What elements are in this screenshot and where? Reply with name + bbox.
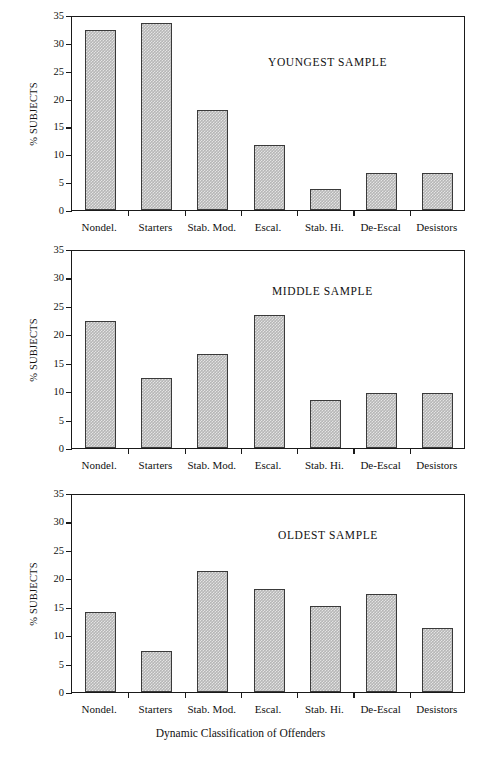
y-tick-label: 35 <box>54 245 65 256</box>
bar <box>85 612 116 692</box>
y-tick <box>66 494 72 495</box>
y-tick <box>66 335 72 336</box>
axes-youngest: 05101520253035 <box>71 16 465 211</box>
x-tick-label: Stab. Hi. <box>305 460 344 471</box>
panel-title-youngest: YOUNGEST SAMPLE <box>268 56 387 68</box>
y-tick <box>66 608 72 609</box>
axis-frame-top <box>72 250 465 251</box>
y-axis-title-youngest: % SUBJECTS <box>2 108 20 119</box>
y-tick-label: 5 <box>59 415 64 426</box>
axis-frame-right <box>464 494 465 692</box>
y-tick <box>66 72 72 73</box>
x-tick-label: Desistors <box>416 704 457 715</box>
x-tick-label: Stab. Mod. <box>187 222 236 233</box>
bar <box>254 315 285 448</box>
y-tick-label: 15 <box>54 122 65 133</box>
y-tick <box>66 16 72 17</box>
y-tick-label: 10 <box>54 387 65 398</box>
y-tick <box>66 449 72 450</box>
y-tick <box>66 127 72 128</box>
y-tick <box>66 551 72 552</box>
y-tick <box>66 579 72 580</box>
y-tick-label: 20 <box>54 574 65 585</box>
y-tick <box>66 392 72 393</box>
x-tick-label: De-Escal <box>360 460 400 471</box>
x-tick <box>185 210 186 216</box>
y-tick-label: 15 <box>54 602 65 613</box>
bar <box>422 393 453 448</box>
y-tick <box>66 278 72 279</box>
bar <box>310 606 341 692</box>
y-tick-label: 0 <box>59 206 64 217</box>
x-tick-label: Nondel. <box>82 704 117 715</box>
x-tick <box>241 692 242 698</box>
axis-frame-top <box>72 16 465 17</box>
x-tick <box>297 448 298 454</box>
x-tick <box>353 210 354 216</box>
bar <box>254 145 285 210</box>
chart-panel-oldest: % SUBJECTS05101520253035Nondel.StartersS… <box>0 490 481 757</box>
x-tick-label: Stab. Hi. <box>305 704 344 715</box>
y-tick <box>66 693 72 694</box>
bar <box>85 321 116 448</box>
y-tick <box>66 44 72 45</box>
x-tick-label: Starters <box>139 704 173 715</box>
panel-title-middle: MIDDLE SAMPLE <box>272 285 373 297</box>
y-tick <box>66 665 72 666</box>
bar <box>141 23 172 210</box>
y-tick-label: 35 <box>54 11 65 22</box>
x-axis-title: Dynamic Classification of Offenders <box>0 727 481 739</box>
x-tick-label: Escal. <box>255 222 282 233</box>
bar <box>197 571 228 692</box>
y-tick <box>66 421 72 422</box>
y-tick-label: 15 <box>54 358 65 369</box>
x-tick <box>297 210 298 216</box>
bar <box>366 173 397 210</box>
bar <box>366 594 397 692</box>
bar <box>141 651 172 693</box>
x-tick-label: Starters <box>139 460 173 471</box>
x-tick <box>410 448 411 454</box>
axes-middle: 05101520253035 <box>71 250 465 449</box>
x-tick-label: Desistors <box>416 222 457 233</box>
x-tick-label: Stab. Mod. <box>187 704 236 715</box>
y-tick <box>66 155 72 156</box>
x-tick <box>241 210 242 216</box>
x-tick <box>410 210 411 216</box>
bar <box>366 393 397 448</box>
y-tick-label: 0 <box>59 444 64 455</box>
y-axis-title-text: % SUBJECTS <box>28 318 39 382</box>
bar <box>422 173 453 210</box>
y-tick-label: 20 <box>54 94 65 105</box>
y-tick-label: 0 <box>59 688 64 699</box>
x-tick-label: Nondel. <box>82 222 117 233</box>
x-tick-label: Nondel. <box>82 460 117 471</box>
y-axis-title-text: % SUBJECTS <box>28 82 39 146</box>
panel-title-oldest: OLDEST SAMPLE <box>278 529 378 541</box>
x-tick <box>297 692 298 698</box>
axis-frame-top <box>72 494 465 495</box>
x-tick <box>128 692 129 698</box>
y-axis-title-middle: % SUBJECTS <box>2 344 20 355</box>
x-tick <box>128 210 129 216</box>
axes-oldest: 05101520253035 <box>71 494 465 693</box>
y-tick <box>66 307 72 308</box>
y-tick <box>66 100 72 101</box>
x-tick-label: De-Escal <box>360 704 400 715</box>
bar <box>197 354 228 448</box>
offender-classification-figure: % SUBJECTS05101520253035Nondel.StartersS… <box>0 0 481 757</box>
x-tick-label: Starters <box>139 222 173 233</box>
y-tick-label: 10 <box>54 150 65 161</box>
x-tick <box>128 448 129 454</box>
bar <box>254 589 285 692</box>
y-tick <box>66 636 72 637</box>
y-tick <box>66 183 72 184</box>
y-tick <box>66 522 72 523</box>
bar <box>141 378 172 449</box>
x-tick <box>241 448 242 454</box>
y-tick-label: 30 <box>54 273 65 284</box>
y-tick-label: 20 <box>54 330 65 341</box>
x-tick-label: Escal. <box>255 704 282 715</box>
y-tick <box>66 250 72 251</box>
x-tick <box>410 692 411 698</box>
